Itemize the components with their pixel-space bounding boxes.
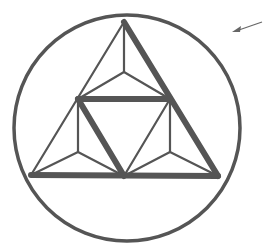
thick-edge	[31, 175, 218, 176]
outer-circle	[14, 15, 240, 241]
triangle-in-circle-diagram	[0, 0, 264, 249]
arrow-head	[232, 26, 241, 32]
pointer-arrow-icon	[232, 22, 262, 32]
